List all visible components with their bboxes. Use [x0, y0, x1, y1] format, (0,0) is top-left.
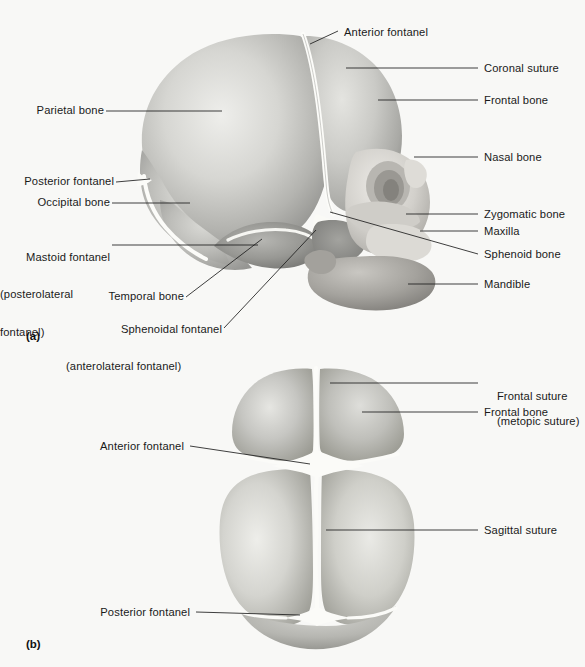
frontal-suture-line-1: Frontal suture — [497, 390, 568, 402]
fetal-skull-figure: Parietal bone Posterior fontanel Occipit… — [0, 0, 585, 667]
label-anterior-fontanel: Anterior fontanel — [344, 26, 428, 39]
label-frontal-bone: Frontal bone — [484, 94, 548, 107]
label-sagittal-suture: Sagittal suture — [484, 524, 557, 537]
panel-b-id: (b) — [26, 638, 41, 650]
label-anterior-fontanel-b: Anterior fontanel — [0, 440, 184, 453]
label-occipital-bone: Occipital bone — [0, 196, 110, 209]
sphenoidal-fontanel-line-1: Sphenoidal fontanel — [121, 323, 222, 335]
sagittal-suture-shape — [315, 476, 317, 612]
label-maxilla: Maxilla — [484, 225, 520, 238]
sphenoidal-fontanel-line-2: (anterolateral fontanel) — [0, 360, 222, 373]
frontal-suture-shape — [316, 368, 318, 462]
label-coronal-suture: Coronal suture — [484, 62, 559, 75]
parietal-bone-left-shape — [220, 469, 314, 625]
label-frontal-bone-b: Frontal bone — [484, 406, 548, 419]
label-mandible: Mandible — [484, 278, 530, 291]
label-parietal-bone: Parietal bone — [0, 104, 104, 117]
label-posterior-fontanel: Posterior fontanel — [0, 175, 114, 188]
panel-b-skull — [190, 368, 478, 649]
mastoid-fontanel-line-1: Mastoid fontanel — [26, 251, 110, 263]
orbit-core-shape — [383, 179, 399, 201]
label-zygomatic-bone: Zygomatic bone — [484, 208, 565, 221]
frontal-bone-right-shape — [319, 369, 404, 461]
panel-a-id: (a) — [26, 330, 40, 342]
label-temporal-bone: Temporal bone — [0, 290, 184, 303]
parietal-bone-right-shape — [321, 469, 415, 624]
label-nasal-bone: Nasal bone — [484, 151, 542, 164]
frontal-bone-left-shape — [232, 369, 314, 461]
label-sphenoid-bone: Sphenoid bone — [484, 248, 561, 261]
label-sphenoidal-fontanel: Sphenoidal fontanel (anterolateral fonta… — [0, 310, 222, 398]
label-posterior-fontanel-b: Posterior fontanel — [0, 606, 190, 619]
panel-a-skull — [106, 31, 478, 328]
